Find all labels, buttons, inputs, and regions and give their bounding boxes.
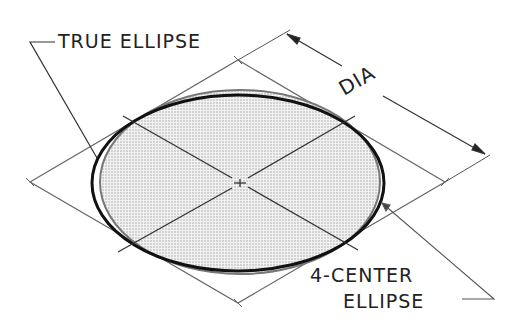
- dia-label: DIA: [335, 61, 380, 101]
- diagram-canvas: DIA TRUE ELLIPSE 4-CENTER ELLIPSE: [0, 0, 524, 326]
- true-ellipse-label: TRUE ELLIPSE: [57, 30, 201, 52]
- four-center-label-line1: 4-CENTER: [310, 264, 413, 286]
- isometric-ellipse-diagram: DIA TRUE ELLIPSE 4-CENTER ELLIPSE: [0, 0, 524, 326]
- true-ellipse-leader: [30, 42, 97, 158]
- four-center-label-line2: ELLIPSE: [343, 290, 424, 312]
